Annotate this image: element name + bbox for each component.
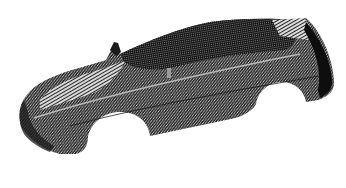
door-handle xyxy=(167,68,171,78)
car-mesh-illustration xyxy=(0,0,346,188)
car-mesh-scene xyxy=(0,0,346,188)
